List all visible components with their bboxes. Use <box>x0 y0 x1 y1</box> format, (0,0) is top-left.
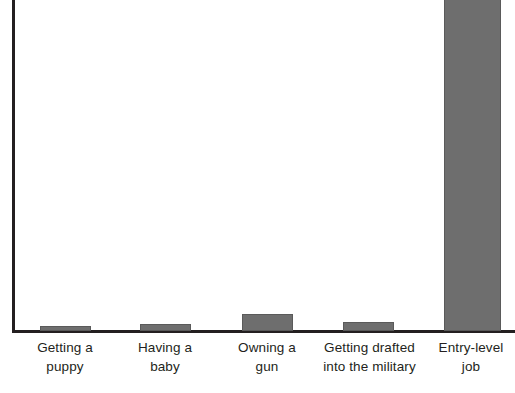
bar-owning-a-gun[interactable] <box>242 314 293 331</box>
x-tick-label-having-a-baby: Having a baby <box>115 338 215 376</box>
category-labels: Getting a puppy Having a baby Owning a g… <box>0 338 515 393</box>
bar-having-a-baby[interactable] <box>140 324 191 331</box>
x-tick-label-entry-level-job: Entry-level job <box>427 338 515 376</box>
x-tick-label-owning-a-gun: Owning a gun <box>217 338 317 376</box>
bar-getting-drafted-into-the-military[interactable] <box>343 322 394 331</box>
bar-entry-level-job[interactable] <box>444 0 501 331</box>
x-tick-label-getting-drafted-into-the-military: Getting drafted into the military <box>318 338 421 376</box>
y-axis-line <box>12 0 15 332</box>
bar-getting-a-puppy[interactable] <box>40 326 91 331</box>
x-tick-label-getting-a-puppy: Getting a puppy <box>15 338 115 376</box>
plot-area <box>0 0 515 334</box>
bar-chart: Getting a puppy Having a baby Owning a g… <box>0 0 515 393</box>
